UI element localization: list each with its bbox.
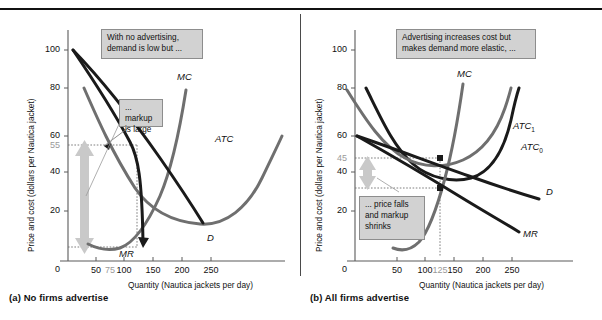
panel-a: Price and cost (dollars per Nautica jack… (0, 0, 301, 320)
x-tick-a-250: 250 (199, 265, 223, 275)
callout-b2-line2: and markup (365, 211, 419, 222)
y-tick-a-60: 60 (38, 130, 60, 140)
curve-label-mr-b: MR (523, 228, 538, 239)
callout-a1-line2: demand is low but ... (107, 44, 197, 55)
y-tick-b-20: 20 (325, 205, 347, 215)
callout-b1-line2: makes demand more elastic, ... (402, 44, 530, 55)
x-ticks-b (397, 257, 512, 261)
callout-a2-line1: ... markup (125, 103, 157, 125)
y-tick-b-40: 40 (325, 166, 347, 176)
callout-b-price-falls: ... price falls and markup shrinks (359, 196, 425, 240)
callout-a2-line2: is large (125, 125, 157, 136)
y-ticks-a (64, 50, 68, 211)
curve-label-d-b: D (546, 186, 553, 197)
callout-b2-line3: shrinks (365, 222, 419, 233)
callout-b1-line1: Advertising increases cost but (402, 33, 530, 44)
mr-arrowhead-a (138, 237, 149, 248)
y-axis-label-a: Price and cost (dollars per Nautica jack… (26, 98, 36, 252)
y-tick-b-80: 80 (325, 82, 347, 92)
marker-avg-cost-b (437, 155, 443, 161)
markup-arrow-a (75, 140, 94, 254)
x-tick-b-50: 50 (385, 265, 409, 275)
curve-label-d-a: D (207, 232, 214, 243)
x-tick-b-250: 250 (500, 265, 524, 275)
leader-b2 (377, 178, 399, 192)
callout-b2-line1: ... price falls (365, 200, 419, 211)
x-axis-label-a: Quantity (Nautica jackets per day) (128, 280, 253, 290)
markup-arrow-b (359, 156, 376, 190)
y-tick-a-0: 0 (38, 264, 60, 274)
callout-a1-line1: With no advertising, (107, 33, 197, 44)
y-tick-b-100: 100 (325, 44, 347, 54)
x-tick-b-150: 150 (443, 265, 467, 275)
y-tick-a-55: 55 (38, 140, 60, 150)
x-tick-a-100: 100 (112, 265, 136, 275)
panel-b: Price and cost (dollars per Nautica jack… (301, 0, 602, 320)
y-ticks-b (351, 50, 355, 211)
curve-label-atc-a: ATC (215, 133, 233, 144)
y-axis-label-b: Price and cost (dollars per Nautica jack… (314, 98, 324, 252)
y-tick-b-45: 45 (325, 153, 347, 163)
y-tick-a-40: 40 (38, 166, 60, 176)
callout-a-markup-large: ... markup is large (119, 99, 163, 127)
curve-label-mc-b: MC (457, 68, 472, 79)
curve-label-mr-a: MR (119, 248, 134, 259)
x-tick-b-200: 200 (471, 265, 495, 275)
callout-b-advertising-increases-cost: Advertising increases cost but makes dem… (396, 29, 536, 59)
curve-label-atc1-b: ATC1 (513, 120, 535, 133)
x-axis-label-b: Quantity (Nautica jackets per day) (419, 280, 544, 290)
curve-label-atc0-b: ATC0 (521, 141, 543, 154)
marker-price-b (437, 185, 443, 191)
panel-b-caption: (b) All firms advertise (310, 292, 409, 303)
callout-a-no-advertising: With no advertising, demand is low but .… (101, 29, 203, 59)
x-tick-a-150: 150 (141, 265, 165, 275)
panel-a-caption: (a) No firms advertise (9, 292, 108, 303)
atc0-base: ATC (521, 141, 539, 152)
y-tick-b-0: 0 (325, 264, 347, 274)
x-ticks-a (96, 257, 211, 261)
atc0-sub: 0 (539, 147, 543, 154)
y-tick-a-20: 20 (38, 205, 60, 215)
atc1-sub: 1 (531, 126, 535, 133)
y-tick-a-80: 80 (38, 82, 60, 92)
figure-container: Price and cost (dollars per Nautica jack… (0, 0, 602, 320)
curve-label-mc-a: MC (177, 71, 192, 82)
atc1-base: ATC (513, 120, 531, 131)
y-tick-b-60: 60 (325, 130, 347, 140)
x-tick-a-200: 200 (170, 265, 194, 275)
y-tick-a-100: 100 (38, 44, 60, 54)
